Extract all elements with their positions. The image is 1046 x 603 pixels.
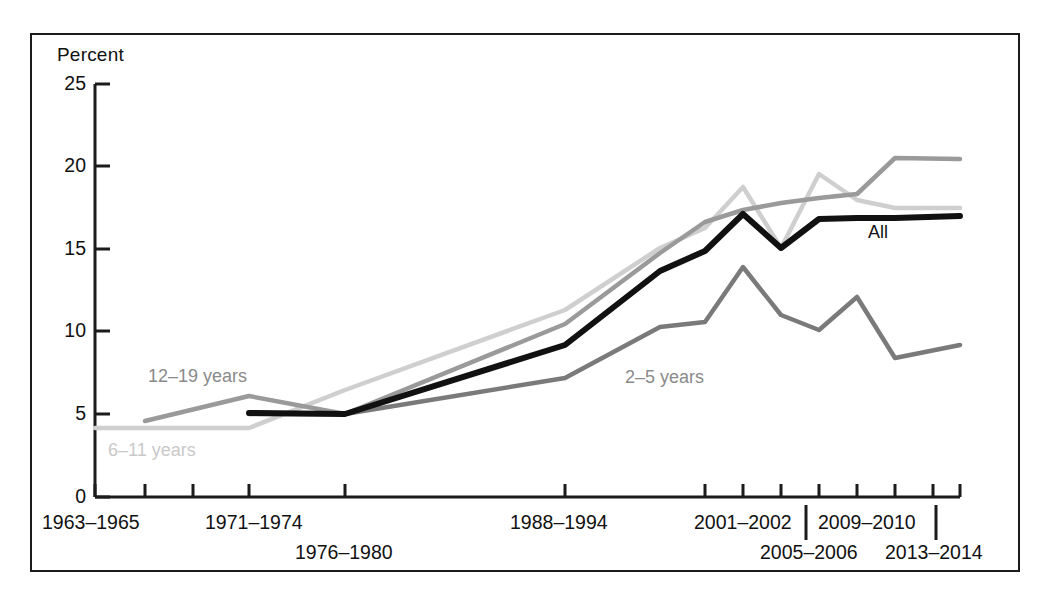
- x-tick-label-1963-1965: 1963–1965: [42, 511, 140, 534]
- x-tick-label-2005-2006: 2005–2006: [760, 541, 858, 564]
- x-tick-label-2013-2014: 2013–2014: [885, 541, 983, 564]
- x-axis-ticks: [95, 484, 960, 497]
- y-tick-label-15: 15: [44, 237, 86, 260]
- y-axis-title: Percent: [57, 44, 124, 66]
- figure-container: Percent 25 20 15 10 5 0 1963–1965 1971–1…: [0, 0, 1046, 603]
- y-tick-label-20: 20: [44, 154, 86, 177]
- series-annotation-6-11-years: 6–11 years: [108, 440, 196, 461]
- series-line-2-5-years: [249, 267, 960, 414]
- series-annotation-12-19-years: 12–19 years: [148, 366, 247, 387]
- series-line-6-11-years: [95, 174, 960, 428]
- series-annotation-all: All: [868, 222, 888, 243]
- x-tick-label-1971-1974: 1971–1974: [205, 511, 303, 534]
- x-tick-label-2001-2002: 2001–2002: [694, 511, 792, 534]
- x-tick-label-1976-1980: 1976–1980: [295, 541, 393, 564]
- y-tick-label-25: 25: [44, 72, 86, 95]
- x-tick-label-2009-2010: 2009–2010: [818, 511, 916, 534]
- series-annotation-2-5-years: 2–5 years: [625, 367, 704, 388]
- x-tick-label-1988-1994: 1988–1994: [510, 511, 608, 534]
- y-tick-label-10: 10: [44, 319, 86, 342]
- y-tick-label-0: 0: [44, 485, 86, 508]
- y-axis-ticks: [95, 84, 110, 497]
- y-tick-label-5: 5: [44, 402, 86, 425]
